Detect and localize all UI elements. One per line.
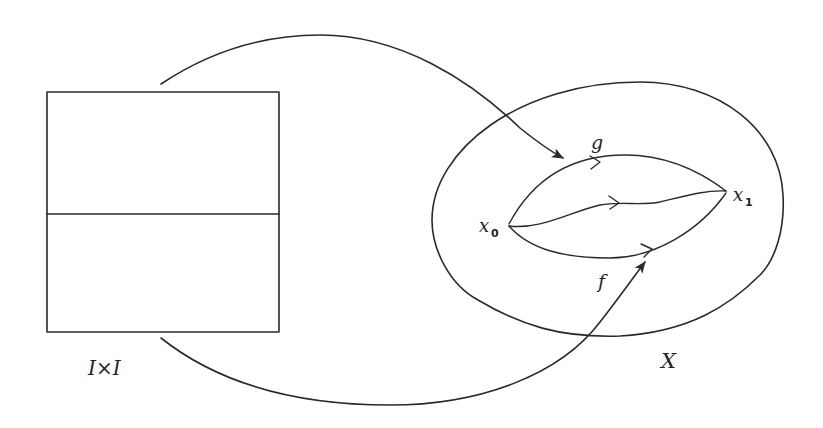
path-g [509,155,726,224]
label-square: I×I [87,356,122,380]
top-mapping-arrow [161,35,563,158]
label-x1-base: x [733,184,743,205]
label-x0-sub: 0 [491,227,499,240]
label-x0-base: x [479,215,489,236]
label-x0: x 0 [479,215,499,240]
square-outline [47,92,279,332]
path-middle-arrowhead-icon [609,196,619,209]
path-middle [509,191,726,227]
space-x-outline [432,82,783,336]
path-f-arrowhead-icon [641,244,652,257]
label-x1-sub: 1 [745,196,753,209]
label-f: f [596,270,608,292]
label-g: g [591,131,603,153]
label-x1: x 1 [733,184,753,209]
label-space-x: X [659,349,677,373]
homotopy-diagram: g f x 0 x 1 X I×I [0,0,823,428]
domain-square [47,92,279,332]
